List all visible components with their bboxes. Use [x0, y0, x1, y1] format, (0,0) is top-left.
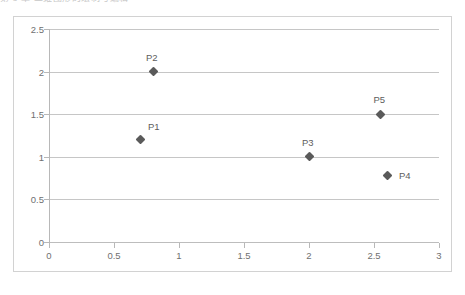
gridline-y-0.5 [49, 199, 439, 200]
data-point-label-p5: P5 [374, 94, 386, 105]
x-tick-label-1.5: 1.5 [224, 250, 264, 261]
x-tick-2.5 [374, 243, 375, 248]
chart-frame: 00.511.522.5 P1P2P3P4P5 00.511.522.53 [13, 16, 452, 272]
x-tick-label-0: 0 [29, 250, 69, 261]
y-tick-0.5 [44, 199, 50, 200]
data-point-label-p3: P3 [302, 137, 314, 148]
gridline-y-2 [49, 72, 439, 73]
y-tick-1.5 [44, 114, 50, 115]
y-tick-label-2: 2 [14, 66, 44, 77]
y-tick-2.5 [44, 29, 50, 30]
data-point-p3[interactable] [304, 152, 314, 162]
x-tick-3 [439, 243, 440, 248]
gridline-y-2.5 [49, 29, 439, 30]
data-point-p5[interactable] [376, 109, 386, 119]
x-tick-label-1: 1 [159, 250, 199, 261]
y-tick-1 [44, 157, 50, 158]
x-tick-0 [49, 243, 50, 248]
y-axis-labels: 00.511.522.5 [14, 17, 44, 273]
data-point-label-p2: P2 [146, 52, 158, 63]
data-point-p4[interactable] [382, 171, 392, 181]
y-tick-label-1.5: 1.5 [14, 109, 44, 120]
clipped-header-text: 第 8 章 二维图形的绘制与编辑 [0, 0, 465, 12]
plot-area: P1P2P3P4P5 [49, 29, 439, 242]
x-tick-0.5 [114, 243, 115, 248]
x-tick-1.5 [244, 243, 245, 248]
y-tick-0 [44, 242, 50, 243]
data-point-p1[interactable] [135, 135, 145, 145]
data-point-p2[interactable] [148, 67, 158, 77]
y-tick-label-0.5: 0.5 [14, 194, 44, 205]
x-tick-2 [309, 243, 310, 248]
y-tick-2 [44, 72, 50, 73]
y-tick-label-2.5: 2.5 [14, 24, 44, 35]
x-tick-label-2.5: 2.5 [354, 250, 394, 261]
data-point-label-p1: P1 [148, 121, 160, 132]
x-tick-label-2: 2 [289, 250, 329, 261]
gridline-y-1 [49, 157, 439, 158]
y-tick-label-1: 1 [14, 151, 44, 162]
x-tick-label-0.5: 0.5 [94, 250, 134, 261]
x-tick-1 [179, 243, 180, 248]
x-tick-label-3: 3 [419, 250, 459, 261]
clipped-header-label: 第 8 章 二维图形的绘制与编辑 [0, 0, 465, 3]
data-point-label-p4: P4 [399, 170, 411, 181]
y-tick-label-0: 0 [14, 237, 44, 248]
